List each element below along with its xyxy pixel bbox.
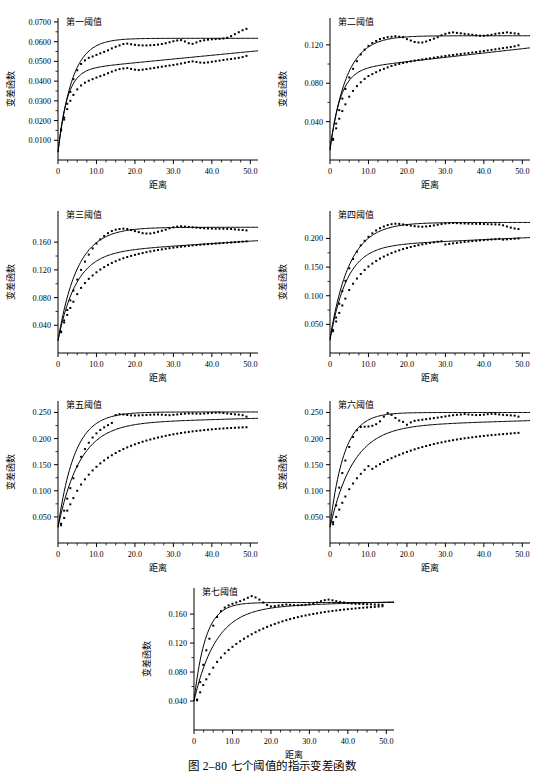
svg-text:0.200: 0.200 <box>305 435 323 444</box>
svg-text:0.160: 0.160 <box>33 238 51 247</box>
svg-text:10.0: 10.0 <box>89 550 103 559</box>
svg-text:第三阈值: 第三阈值 <box>66 209 102 220</box>
svg-text:0: 0 <box>56 360 60 369</box>
svg-text:距离: 距离 <box>421 179 439 190</box>
svg-text:0: 0 <box>328 167 332 176</box>
svg-text:0.0200: 0.0200 <box>28 117 51 126</box>
svg-text:0.080: 0.080 <box>169 668 187 677</box>
svg-text:距离: 距离 <box>421 372 439 383</box>
svg-text:20.0: 20.0 <box>400 360 414 369</box>
svg-text:距离: 距离 <box>149 372 167 383</box>
svg-text:0.0400: 0.0400 <box>28 77 51 86</box>
svg-text:50.0: 50.0 <box>515 167 529 176</box>
panel-4: 0.0500.1000.1500.200010.020.030.040.050.… <box>272 193 544 388</box>
figure-container: 0.01000.02000.03000.04000.05000.06000.07… <box>0 0 544 781</box>
svg-text:变差函数: 变差函数 <box>277 454 288 490</box>
svg-text:0.250: 0.250 <box>33 408 51 417</box>
panel-7: 0.0400.0800.1200.160010.020.030.040.050.… <box>136 570 408 765</box>
svg-text:40.0: 40.0 <box>477 360 491 369</box>
svg-text:变差函数: 变差函数 <box>277 71 288 107</box>
svg-text:30.0: 30.0 <box>166 360 180 369</box>
svg-text:0.040: 0.040 <box>169 697 187 706</box>
svg-text:40.0: 40.0 <box>477 550 491 559</box>
panel-1: 0.01000.02000.03000.04000.05000.06000.07… <box>0 0 272 195</box>
svg-text:20.0: 20.0 <box>400 550 414 559</box>
svg-text:0: 0 <box>328 550 332 559</box>
svg-text:0.150: 0.150 <box>33 461 51 470</box>
svg-text:50.0: 50.0 <box>243 360 257 369</box>
svg-text:变差函数: 变差函数 <box>5 454 16 490</box>
svg-text:0.100: 0.100 <box>33 487 51 496</box>
svg-text:20.0: 20.0 <box>128 167 142 176</box>
svg-text:30.0: 30.0 <box>438 360 452 369</box>
svg-text:第二阈值: 第二阈值 <box>338 16 374 27</box>
svg-text:第一阈值: 第一阈值 <box>66 16 102 27</box>
svg-text:40.0: 40.0 <box>205 167 219 176</box>
svg-text:30.0: 30.0 <box>438 167 452 176</box>
svg-text:0.040: 0.040 <box>33 321 51 330</box>
svg-text:0.120: 0.120 <box>305 41 323 50</box>
svg-text:0.050: 0.050 <box>305 320 323 329</box>
svg-text:0.050: 0.050 <box>305 513 323 522</box>
panel-3: 0.0400.0800.1200.160010.020.030.040.050.… <box>0 193 272 388</box>
svg-text:10.0: 10.0 <box>89 360 103 369</box>
svg-text:0.120: 0.120 <box>33 266 51 275</box>
svg-text:50.0: 50.0 <box>515 550 529 559</box>
svg-text:10.0: 10.0 <box>361 167 375 176</box>
svg-text:0: 0 <box>56 167 60 176</box>
svg-text:30.0: 30.0 <box>438 550 452 559</box>
panel-6: 0.0500.1000.1500.2000.250010.020.030.040… <box>272 383 544 578</box>
svg-text:20.0: 20.0 <box>128 360 142 369</box>
svg-text:变差函数: 变差函数 <box>277 264 288 300</box>
svg-text:10.0: 10.0 <box>89 167 103 176</box>
svg-text:0: 0 <box>192 737 196 746</box>
svg-text:距离: 距离 <box>421 562 439 573</box>
svg-text:0.0300: 0.0300 <box>28 97 51 106</box>
svg-text:第五阈值: 第五阈值 <box>66 399 102 410</box>
svg-text:20.0: 20.0 <box>128 550 142 559</box>
svg-text:40.0: 40.0 <box>205 550 219 559</box>
svg-text:0.100: 0.100 <box>305 487 323 496</box>
svg-text:0.040: 0.040 <box>305 118 323 127</box>
svg-text:50.0: 50.0 <box>243 167 257 176</box>
svg-text:40.0: 40.0 <box>341 737 355 746</box>
svg-text:20.0: 20.0 <box>264 737 278 746</box>
svg-text:0.150: 0.150 <box>305 461 323 470</box>
svg-text:0.160: 0.160 <box>169 610 187 619</box>
svg-text:50.0: 50.0 <box>379 737 393 746</box>
figure-caption: 图 2–80 七个阈值的指示变差函数 <box>0 757 544 773</box>
svg-text:0.150: 0.150 <box>305 263 323 272</box>
svg-text:0.050: 0.050 <box>33 513 51 522</box>
svg-text:0.0600: 0.0600 <box>28 38 51 47</box>
svg-text:0.080: 0.080 <box>33 294 51 303</box>
svg-text:0.080: 0.080 <box>305 79 323 88</box>
svg-text:30.0: 30.0 <box>166 167 180 176</box>
svg-text:0.0500: 0.0500 <box>28 57 51 66</box>
svg-text:50.0: 50.0 <box>243 550 257 559</box>
svg-text:0.250: 0.250 <box>305 408 323 417</box>
svg-text:50.0: 50.0 <box>515 360 529 369</box>
svg-text:0.100: 0.100 <box>305 292 323 301</box>
svg-text:30.0: 30.0 <box>166 550 180 559</box>
svg-text:0.120: 0.120 <box>169 639 187 648</box>
svg-text:10.0: 10.0 <box>361 360 375 369</box>
svg-text:0.200: 0.200 <box>33 435 51 444</box>
svg-text:40.0: 40.0 <box>205 360 219 369</box>
svg-text:0.0100: 0.0100 <box>28 136 51 145</box>
svg-text:第七阈值: 第七阈值 <box>202 586 238 597</box>
svg-text:0.0700: 0.0700 <box>28 18 51 27</box>
svg-text:0: 0 <box>328 360 332 369</box>
svg-text:40.0: 40.0 <box>477 167 491 176</box>
svg-text:30.0: 30.0 <box>302 737 316 746</box>
svg-text:10.0: 10.0 <box>361 550 375 559</box>
svg-text:0: 0 <box>56 550 60 559</box>
panel-5: 0.0500.1000.1500.2000.250010.020.030.040… <box>0 383 272 578</box>
svg-text:变差函数: 变差函数 <box>5 71 16 107</box>
svg-text:变差函数: 变差函数 <box>141 641 152 677</box>
svg-text:第四阈值: 第四阈值 <box>338 209 374 220</box>
svg-text:变差函数: 变差函数 <box>5 264 16 300</box>
panel-2: 0.0400.0800.120010.020.030.040.050.0第二阈值… <box>272 0 544 195</box>
svg-text:距离: 距离 <box>149 179 167 190</box>
svg-text:0.200: 0.200 <box>305 234 323 243</box>
svg-text:第六阈值: 第六阈值 <box>338 399 374 410</box>
